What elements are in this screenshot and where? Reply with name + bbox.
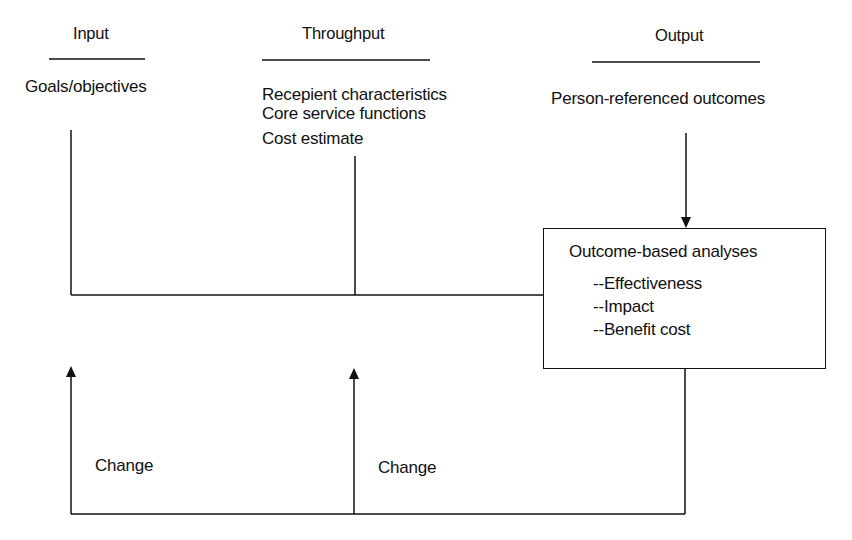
throughput-item: Recepient characteristics [262,85,447,104]
output-item: Person-referenced outcomes [551,89,765,108]
throughput-item: Cost estimate [262,129,363,148]
arrowhead-down-icon [681,217,691,228]
input-item: Goals/objectives [25,77,147,96]
throughput-item: Core service functions [262,104,426,123]
arrowhead-up-icon [349,368,359,379]
analysis-item: --Impact [593,297,654,316]
analysis-item: --Effectiveness [593,274,702,293]
throughput-header: Throughput [302,24,384,43]
change-label-input: Change [95,456,153,475]
change-label-throughput: Change [378,458,436,477]
arrowhead-up-icon [66,366,76,377]
analysis-item: --Benefit cost [593,320,690,339]
input-header: Input [73,24,109,43]
output-header: Output [655,26,703,45]
analysis-box-title: Outcome-based analyses [569,242,757,261]
